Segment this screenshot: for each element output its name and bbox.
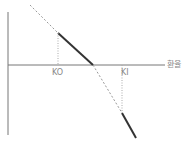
payoff-diagram — [0, 0, 190, 145]
x-axis-label: 환율 — [167, 61, 181, 69]
solid-segment-upper — [58, 33, 93, 65]
solid-segment-lower — [122, 113, 136, 138]
ko-label: KO — [52, 69, 63, 77]
dashed-line-lower — [93, 65, 122, 113]
ki-label: KI — [121, 69, 129, 77]
dashed-line-upper — [30, 5, 58, 33]
